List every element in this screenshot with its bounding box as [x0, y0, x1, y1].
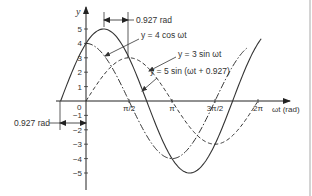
x-tick-label: 3π/2 — [207, 104, 224, 113]
svg-text:y = 4 cos ωt: y = 4 cos ωt — [141, 30, 187, 40]
y-tick-label: −2 — [73, 126, 83, 135]
origin-label: 0 — [77, 103, 82, 112]
y-tick-label: −1 — [73, 111, 83, 120]
label-4cos: y = 4 cos ωt — [105, 30, 187, 56]
phase-diagram: 54321−1−2−3−4−5 π/2π3π/22π y 0 ωt (rad) … — [0, 0, 312, 196]
y-tick-label: 1 — [78, 83, 83, 92]
y-tick-label: 5 — [78, 25, 83, 34]
x-tick-label: π/2 — [123, 104, 136, 113]
y-tick-label: −5 — [73, 169, 83, 178]
top-dimension-label: 0.927 rad — [136, 15, 172, 25]
x-axis-label: ωt (rad) — [272, 105, 300, 114]
svg-text:y = 3 sin ωt: y = 3 sin ωt — [178, 49, 222, 59]
bottom-dimension-label: 0.927 rad — [14, 118, 50, 128]
label-5sin: y = 5 sin (ωt + 0.927) — [142, 66, 230, 91]
y-tick-label: −3 — [73, 140, 83, 149]
x-tick-label: 2π — [253, 104, 263, 113]
y-axis-label: y — [75, 6, 81, 17]
y-tick-label: 4 — [78, 39, 83, 48]
y-tick-label: 2 — [78, 68, 83, 77]
y-tick-label: −4 — [73, 155, 83, 164]
svg-text:y = 5 sin (ωt + 0.927): y = 5 sin (ωt + 0.927) — [150, 66, 230, 76]
